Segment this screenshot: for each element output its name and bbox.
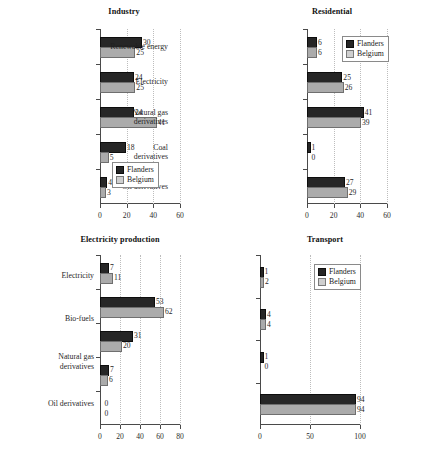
chart-figure: Industry 0204060Renewable energy3025Elec… bbox=[0, 0, 424, 455]
category-label: Electricity bbox=[16, 272, 94, 281]
y-tick bbox=[96, 323, 100, 324]
bar-belgium bbox=[260, 404, 356, 415]
bar-value-label: 2 bbox=[265, 277, 269, 286]
x-tick bbox=[360, 425, 361, 429]
legend-label: Belgium bbox=[127, 175, 154, 185]
y-tick bbox=[256, 340, 260, 341]
panel-title: Industry bbox=[0, 7, 212, 16]
y-tick bbox=[96, 64, 100, 65]
y-tick bbox=[303, 134, 307, 135]
bar-value-label: 94 bbox=[357, 404, 365, 413]
x-tick bbox=[140, 425, 141, 429]
legend-swatch-belgium-icon bbox=[318, 278, 326, 286]
y-tick bbox=[96, 357, 100, 358]
x-tick bbox=[260, 425, 261, 429]
plot-area: 020406080Renewable energy711Nuclear5362N… bbox=[100, 255, 180, 425]
legend: FlandersBelgium bbox=[112, 162, 159, 188]
legend: FlandersBelgium bbox=[314, 264, 361, 290]
legend-swatch-flanders-icon bbox=[346, 40, 354, 48]
gridline bbox=[140, 255, 141, 425]
x-tick bbox=[100, 425, 101, 429]
bar-belgium bbox=[100, 341, 122, 352]
bar-value-label: 0 bbox=[105, 399, 109, 408]
bar-belgium bbox=[100, 375, 108, 386]
legend-item-flanders: Flanders bbox=[346, 39, 384, 49]
y-tick bbox=[96, 99, 100, 100]
x-tick bbox=[387, 204, 388, 208]
bar-belgium bbox=[100, 307, 164, 318]
x-tick-label: 0 bbox=[305, 211, 309, 220]
x-tick-label: 40 bbox=[357, 211, 365, 220]
y-tick bbox=[303, 64, 307, 65]
bar-value-label: 6 bbox=[109, 375, 113, 384]
x-tick-label: 0 bbox=[98, 211, 102, 220]
bar-belgium bbox=[260, 319, 266, 330]
bar-belgium bbox=[100, 273, 113, 284]
category-label: Electricity bbox=[76, 77, 168, 86]
y-tick bbox=[96, 29, 100, 30]
legend-swatch-belgium-icon bbox=[116, 176, 124, 184]
bar-value-label: 11 bbox=[114, 273, 121, 282]
bar-value-label: 53 bbox=[156, 297, 164, 306]
bar-value-label: 41 bbox=[365, 107, 373, 116]
panel-residential: Residential 0204060Renewable energy66Ele… bbox=[212, 0, 424, 227]
legend-label: Flanders bbox=[357, 39, 384, 49]
bar-value-label: 4 bbox=[267, 309, 271, 318]
x-tick bbox=[160, 425, 161, 429]
y-tick bbox=[96, 391, 100, 392]
x-tick bbox=[310, 425, 311, 429]
bar-value-label: 1 bbox=[265, 352, 269, 361]
category-label: Bio-fuels bbox=[16, 314, 94, 323]
x-tick-label: 40 bbox=[150, 211, 158, 220]
bar-value-label: 4 bbox=[267, 319, 271, 328]
x-tick-label: 20 bbox=[116, 432, 124, 441]
bar-value-label: 25 bbox=[343, 72, 351, 81]
x-axis bbox=[307, 203, 387, 204]
category-label: Coal derivatives bbox=[76, 142, 168, 161]
x-tick-label: 40 bbox=[136, 432, 144, 441]
bar-value-label: 29 bbox=[349, 187, 357, 196]
x-tick-label: 20 bbox=[330, 211, 338, 220]
x-tick-label: 100 bbox=[354, 432, 365, 441]
x-tick-label: 60 bbox=[156, 432, 164, 441]
y-tick bbox=[96, 255, 100, 256]
x-tick bbox=[180, 204, 181, 208]
bar-value-label: 27 bbox=[346, 177, 354, 186]
category-label: Natural gas derivatives bbox=[76, 107, 168, 126]
category-label: Renewable energy bbox=[76, 42, 168, 51]
legend-item-belgium: Belgium bbox=[346, 49, 384, 59]
bar-value-label: 0 bbox=[312, 152, 316, 161]
bar-belgium bbox=[307, 187, 348, 198]
legend-label: Belgium bbox=[357, 49, 384, 59]
x-tick bbox=[307, 204, 308, 208]
legend-item-belgium: Belgium bbox=[318, 277, 356, 287]
x-tick bbox=[127, 204, 128, 208]
legend-swatch-belgium-icon bbox=[346, 50, 354, 58]
y-tick bbox=[256, 298, 260, 299]
bar-flanders bbox=[307, 142, 311, 153]
bar-value-label: 20 bbox=[123, 341, 131, 350]
bar-value-label: 39 bbox=[362, 117, 370, 126]
bar-belgium bbox=[307, 82, 344, 93]
x-tick-label: 20 bbox=[123, 211, 131, 220]
legend-item-flanders: Flanders bbox=[318, 267, 356, 277]
y-tick bbox=[303, 29, 307, 30]
panel-electricity-production: Electricity production 020406080Renewabl… bbox=[0, 228, 212, 455]
panel-title: Electricity production bbox=[0, 235, 212, 244]
gridline bbox=[180, 255, 181, 425]
category-label: Natural gas derivatives bbox=[16, 352, 94, 371]
legend-item-flanders: Flanders bbox=[116, 165, 154, 175]
bar-value-label: 0 bbox=[265, 362, 269, 371]
x-tick-label: 60 bbox=[176, 211, 184, 220]
x-tick-label: 60 bbox=[383, 211, 391, 220]
y-tick bbox=[256, 255, 260, 256]
gridline bbox=[160, 255, 161, 425]
bar-value-label: 1 bbox=[265, 267, 269, 276]
bar-value-label: 7 bbox=[110, 365, 114, 374]
bar-belgium bbox=[260, 277, 264, 288]
y-tick bbox=[96, 289, 100, 290]
y-tick bbox=[303, 169, 307, 170]
legend-swatch-flanders-icon bbox=[318, 268, 326, 276]
y-tick bbox=[96, 169, 100, 170]
legend-label: Belgium bbox=[329, 277, 356, 287]
